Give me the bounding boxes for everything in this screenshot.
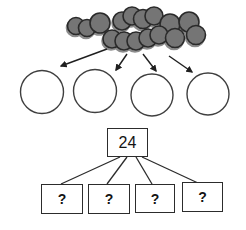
- tree-link-1: [61, 157, 120, 184]
- distribute-arrow-3: [143, 54, 156, 71]
- part-box-4: ?: [182, 182, 223, 212]
- total-box: 24: [107, 128, 148, 157]
- counter-circle-icon: [90, 13, 110, 33]
- counter-circle-icon: [187, 26, 206, 45]
- part-value-2: ?: [105, 192, 114, 206]
- counter-pile: [68, 7, 206, 50]
- part-box-2: ?: [88, 184, 130, 214]
- part-value-3: ?: [151, 192, 160, 206]
- distribute-arrow-1: [61, 49, 107, 66]
- group-circle-4: [187, 73, 229, 115]
- part-value-1: ?: [58, 192, 67, 206]
- group-circle-3: [131, 74, 173, 116]
- group-circle-1: [21, 71, 64, 114]
- group-circle-2: [74, 70, 117, 113]
- tree-link-4: [142, 157, 198, 183]
- division-diagram: 24 ? ? ? ?: [0, 0, 246, 230]
- counter-circle-icon: [166, 29, 185, 48]
- distribute-arrow-2: [116, 54, 127, 70]
- part-box-3: ?: [135, 184, 175, 213]
- part-box-1: ?: [41, 184, 83, 214]
- total-value: 24: [119, 135, 137, 151]
- part-value-4: ?: [198, 190, 207, 204]
- distribute-arrow-4: [169, 56, 192, 72]
